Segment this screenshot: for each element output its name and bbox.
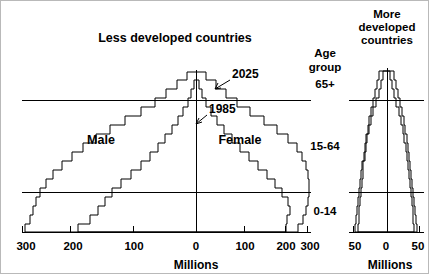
- age-band-label-65plus: 65+: [315, 78, 335, 90]
- left-panel: Less developed countries 2025 1985 Male: [16, 31, 319, 272]
- left-ticklabel-1: 200: [63, 240, 82, 252]
- left-panel-title: Less developed countries: [98, 31, 252, 45]
- age-group-label-line1: Age: [314, 47, 336, 59]
- right-panel-title-line3: countries: [361, 34, 413, 46]
- age-band-label-15-64: 15-64: [310, 140, 340, 152]
- right-series-2025-outline: [355, 71, 417, 232]
- annotation-2025-label: 2025: [232, 67, 259, 81]
- age-band-label-0-14: 0-14: [313, 205, 337, 217]
- left-ticklabel-6: 300: [300, 240, 319, 252]
- label-female: Female: [218, 133, 261, 147]
- right-series-1985-outline: [358, 71, 414, 232]
- left-ticklabel-0: 300: [16, 240, 35, 252]
- left-ticklabel-3: 0: [193, 240, 199, 252]
- right-axis-units: Millions: [368, 258, 413, 272]
- right-ticklabel-0: 50: [349, 240, 362, 252]
- age-group-label-line2: group: [309, 61, 342, 73]
- right-panel-title-line1: More: [373, 8, 400, 20]
- label-male: Male: [87, 133, 115, 147]
- right-ticklabel-2: 50: [412, 240, 425, 252]
- left-axis-units: Millions: [174, 258, 219, 272]
- figure-canvas: Less developed countries 2025 1985 Male: [0, 0, 429, 274]
- population-pyramid-figure: Less developed countries 2025 1985 Male: [0, 0, 429, 274]
- left-series-1985-outline: [78, 80, 290, 232]
- right-ticklabel-1: 0: [383, 240, 389, 252]
- right-panel: More developed countries 50: [349, 8, 425, 272]
- left-ticklabel-2: 100: [124, 240, 143, 252]
- right-x-tick-labels: 50 0 50: [349, 240, 425, 252]
- left-ticklabel-4: 100: [235, 240, 254, 252]
- left-ticklabel-5: 200: [276, 240, 295, 252]
- annotation-1985-label: 1985: [209, 102, 236, 116]
- left-series-2025-outline: [25, 72, 309, 232]
- age-group-legend: Age group 65+ 15-64 0-14: [309, 47, 342, 217]
- right-panel-title-line2: developed: [359, 21, 416, 33]
- left-x-tick-labels: 300 200 100 0 100 200 300: [16, 240, 319, 252]
